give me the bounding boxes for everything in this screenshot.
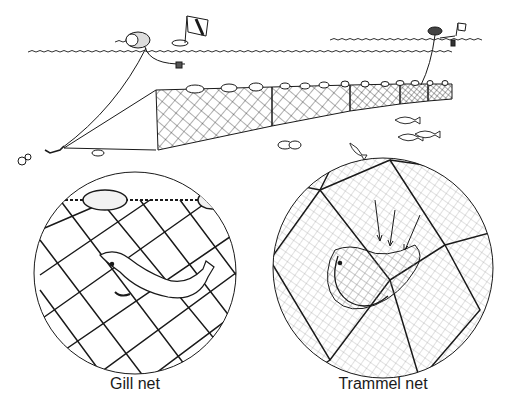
gill-net-caption: Gill net xyxy=(85,375,185,393)
trammel-net-inset xyxy=(270,158,500,380)
anchor-lines xyxy=(62,48,156,150)
net-illustration xyxy=(0,0,506,411)
gill-net-inset xyxy=(30,172,240,385)
trammel-net-caption: Trammel net xyxy=(318,375,448,393)
fish-group xyxy=(350,117,440,160)
water-surface xyxy=(28,39,482,53)
surface-float-right xyxy=(421,23,466,85)
surface-float-left xyxy=(126,32,185,68)
marker-flag-left xyxy=(172,16,208,46)
